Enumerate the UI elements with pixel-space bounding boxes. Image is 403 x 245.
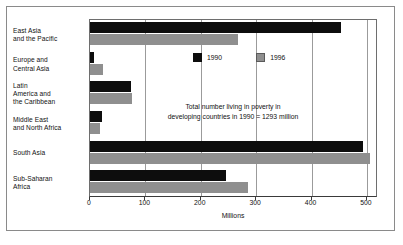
category-label-line: Central Asia bbox=[13, 65, 83, 73]
category-label-0: East Asiaand the Pacific bbox=[13, 27, 83, 43]
bar-1996 bbox=[90, 153, 370, 164]
category-label-line: South Asia bbox=[13, 149, 83, 157]
bar-1990 bbox=[90, 111, 102, 122]
category-label-line: Sub-Saharan bbox=[13, 175, 83, 183]
legend-item-1990: 1990 bbox=[193, 53, 222, 62]
bar-group bbox=[90, 141, 376, 171]
category-label-line: Africa bbox=[13, 183, 83, 191]
legend-item-1996: 1996 bbox=[256, 53, 285, 62]
x-axis-title: Millions bbox=[89, 212, 377, 219]
x-tick-label-500: 500 bbox=[351, 199, 381, 206]
bar-group bbox=[90, 170, 376, 200]
legend-label-1996: 1996 bbox=[270, 54, 285, 61]
category-label-4: South Asia bbox=[13, 149, 83, 157]
bar-1990 bbox=[90, 81, 131, 92]
category-label-line: Europe and bbox=[13, 56, 83, 64]
x-tick-label-200: 200 bbox=[185, 199, 215, 206]
bar-1990 bbox=[90, 141, 363, 152]
poverty-total-note-line-1: Total number living in poverty in bbox=[113, 102, 353, 112]
chart-legend: 1990 1996 bbox=[193, 53, 285, 62]
bar-chart: East Asiaand the PacificEurope andCentra… bbox=[7, 7, 394, 230]
gray-square-icon bbox=[256, 53, 265, 62]
category-label-3: Middle Eastand North Africa bbox=[13, 116, 83, 132]
category-label-2: LatinAmerica andthe Caribbean bbox=[13, 82, 83, 107]
x-tick-label-400: 400 bbox=[296, 199, 326, 206]
black-square-icon bbox=[193, 53, 202, 62]
bar-group bbox=[90, 22, 376, 52]
poverty-total-note: Total number living in poverty in develo… bbox=[113, 102, 353, 121]
category-label-line: and North Africa bbox=[13, 124, 83, 132]
category-label-line: East Asia bbox=[13, 27, 83, 35]
poverty-total-note-line-2: developing countries in 1990 = 1293 mill… bbox=[113, 112, 353, 122]
bar-1996 bbox=[90, 123, 100, 134]
category-label-1: Europe andCentral Asia bbox=[13, 56, 83, 72]
category-label-line: and the Pacific bbox=[13, 35, 83, 43]
bar-1990 bbox=[90, 52, 94, 63]
category-label-line: Latin bbox=[13, 82, 83, 90]
category-label-5: Sub-SaharanAfrica bbox=[13, 175, 83, 191]
bar-1996 bbox=[90, 34, 238, 45]
figure-frame: East Asiaand the PacificEurope andCentra… bbox=[6, 6, 395, 231]
category-label-line: the Caribbean bbox=[13, 98, 83, 106]
bar-1996 bbox=[90, 182, 248, 193]
x-tick-label-0: 0 bbox=[74, 199, 104, 206]
bar-1996 bbox=[90, 64, 103, 75]
category-label-line: America and bbox=[13, 90, 83, 98]
bar-1990 bbox=[90, 170, 226, 181]
legend-label-1990: 1990 bbox=[207, 54, 222, 61]
x-tick-label-100: 100 bbox=[129, 199, 159, 206]
category-axis-labels: East Asiaand the PacificEurope andCentra… bbox=[13, 19, 81, 197]
x-tick-label-300: 300 bbox=[240, 199, 270, 206]
bar-1990 bbox=[90, 22, 341, 33]
category-label-line: Middle East bbox=[13, 116, 83, 124]
